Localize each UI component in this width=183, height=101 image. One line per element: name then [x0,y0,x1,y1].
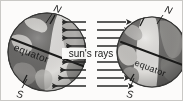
suns-rays-label: sun's rays [69,48,114,59]
sun-rays-globes-diagram: N S equator sun's rays [0,0,183,101]
diagram-canvas: N S equator sun's rays [0,0,183,101]
